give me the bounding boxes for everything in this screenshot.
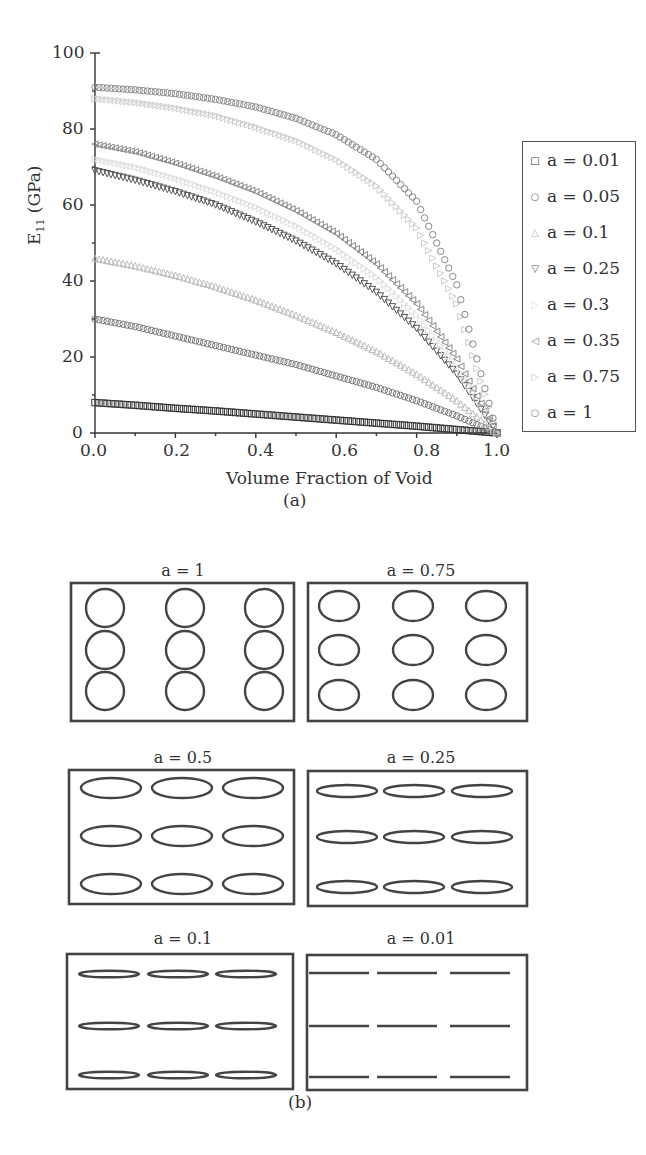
caption-a: (a) xyxy=(283,490,306,510)
void-ellipse xyxy=(319,591,359,621)
void-ellipse xyxy=(216,1023,276,1030)
void-ellipse xyxy=(393,591,433,621)
void-ellipse xyxy=(319,635,359,665)
void-ellipse xyxy=(216,1072,276,1079)
void-ellipse xyxy=(466,635,506,665)
panel-title: a = 0.5 xyxy=(68,748,298,767)
x-axis-title: Volume Fraction of Void xyxy=(226,468,433,488)
legend-label: a = 0.05 xyxy=(547,186,620,206)
y-tick-label: 40 xyxy=(62,270,84,290)
void-ellipse xyxy=(223,874,283,894)
legend-item: ○a = 0.05 xyxy=(529,178,620,214)
void-ellipse xyxy=(148,971,208,978)
series-a-0-3 xyxy=(92,156,500,436)
circle-marker-icon: ○ xyxy=(529,407,541,418)
legend: □a = 0.01 ○a = 0.05 △a = 0.1 ▽a = 0.25 ▷… xyxy=(522,141,636,432)
void-ellipse xyxy=(86,631,124,669)
void-ellipse xyxy=(166,589,204,627)
void-ellipse xyxy=(79,1072,139,1079)
x-tick-label: 0.0 xyxy=(80,440,107,460)
legend-item: □a = 0.01 xyxy=(529,142,620,178)
void-panel xyxy=(307,955,527,1090)
y-tick-label: 80 xyxy=(62,118,84,138)
void-ellipse xyxy=(319,680,359,710)
void-ellipse xyxy=(152,874,212,894)
legend-item: ▷a = 0.75 xyxy=(529,358,620,394)
void-ellipse xyxy=(245,631,283,669)
void-ellipse xyxy=(166,631,204,669)
void-ellipse xyxy=(393,635,433,665)
triangle-left-marker-icon: ◁ xyxy=(529,335,541,346)
caption-b: (b) xyxy=(288,1092,312,1112)
void-ellipse xyxy=(393,680,433,710)
void-ellipse xyxy=(79,1023,139,1030)
circle-marker-icon: ○ xyxy=(529,191,541,202)
legend-item: △a = 0.1 xyxy=(529,214,609,250)
series-a-0-01 xyxy=(92,399,500,436)
void-ellipse xyxy=(148,1023,208,1030)
void-ellipse xyxy=(466,680,506,710)
void-ellipse xyxy=(466,591,506,621)
legend-item: ○a = 1 xyxy=(529,394,593,430)
void-ellipse xyxy=(81,826,141,846)
void-ellipse xyxy=(317,831,377,843)
y-tick-label: 60 xyxy=(62,194,84,214)
void-ellipse xyxy=(384,881,444,893)
void-ellipse xyxy=(384,831,444,843)
void-ellipse xyxy=(245,589,283,627)
panel-title: a = 0.1 xyxy=(68,929,298,948)
void-ellipse xyxy=(245,672,283,710)
data-series xyxy=(92,84,500,436)
void-ellipse xyxy=(317,881,377,893)
void-panel xyxy=(308,771,527,906)
series-a-0-25 xyxy=(92,168,500,437)
series-a-0-75 xyxy=(92,95,500,436)
void-ellipse xyxy=(317,785,377,797)
square-marker-icon: □ xyxy=(529,155,541,166)
void-panel xyxy=(69,770,294,904)
y-tick-label: 0 xyxy=(72,422,83,442)
void-ellipse xyxy=(166,672,204,710)
void-ellipse xyxy=(81,874,141,894)
legend-label: a = 0.01 xyxy=(547,150,620,170)
void-ellipse xyxy=(86,589,124,627)
legend-label: a = 0.75 xyxy=(547,366,620,386)
triangle-right-marker-icon: ▷ xyxy=(529,371,541,382)
legend-label: a = 0.35 xyxy=(547,330,620,350)
void-panel xyxy=(71,583,294,721)
legend-label: a = 0.3 xyxy=(547,294,609,314)
legend-item: ▽a = 0.25 xyxy=(529,250,620,286)
panel-title: a = 0.75 xyxy=(306,561,536,580)
void-panel xyxy=(308,583,527,721)
series-a-1 xyxy=(92,84,500,436)
x-tick-label: 0.6 xyxy=(331,440,358,460)
y-tick-label: 100 xyxy=(52,42,84,62)
legend-label: a = 0.1 xyxy=(547,222,609,242)
y-tick-label: 20 xyxy=(62,346,84,366)
void-ellipse xyxy=(152,826,212,846)
triangle-down-marker-icon: ▽ xyxy=(529,263,541,274)
void-ellipse xyxy=(148,1072,208,1079)
axes xyxy=(90,53,497,438)
triangle-up-marker-icon: △ xyxy=(529,227,541,238)
x-tick-label: 0.4 xyxy=(247,440,274,460)
void-ellipse xyxy=(452,881,512,893)
panel-title: a = 0.25 xyxy=(306,748,536,767)
x-tick-label: 1.0 xyxy=(483,440,510,460)
x-tick-label: 0.8 xyxy=(413,440,440,460)
panel-title: a = 1 xyxy=(68,561,298,580)
y-axis-title: E11 (GPa) xyxy=(24,166,47,245)
void-ellipse xyxy=(223,778,283,798)
void-ellipse xyxy=(452,831,512,843)
legend-label: a = 0.25 xyxy=(547,258,620,278)
void-ellipse xyxy=(223,826,283,846)
legend-item: ▷a = 0.3 xyxy=(529,286,609,322)
series-a-0-1 xyxy=(92,255,500,436)
void-ellipse xyxy=(86,672,124,710)
void-ellipse xyxy=(81,778,141,798)
panel-title: a = 0.01 xyxy=(306,929,536,948)
void-panel xyxy=(67,954,293,1089)
void-ellipse xyxy=(452,785,512,797)
void-ellipse xyxy=(152,778,212,798)
void-ellipse xyxy=(216,971,276,978)
